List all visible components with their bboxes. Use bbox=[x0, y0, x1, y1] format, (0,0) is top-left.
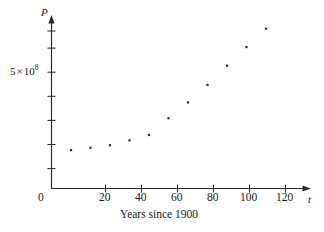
data-point bbox=[206, 84, 208, 86]
data-point bbox=[128, 139, 130, 141]
x-tick-label-60: 60 bbox=[171, 192, 183, 204]
data-point bbox=[89, 147, 91, 149]
x-tick-label-80: 80 bbox=[207, 192, 219, 204]
y-label-base: 10 bbox=[24, 65, 35, 77]
y-axis-tick-label: 5×108 bbox=[10, 66, 38, 77]
multiplication-sign-icon: × bbox=[16, 65, 24, 77]
data-point bbox=[167, 117, 169, 119]
data-point bbox=[70, 149, 72, 151]
data-point bbox=[109, 144, 111, 146]
data-point bbox=[187, 101, 189, 103]
data-point bbox=[226, 65, 228, 67]
x-tick-label-40: 40 bbox=[135, 192, 147, 204]
data-point bbox=[245, 46, 247, 48]
y-label-exponent: 8 bbox=[35, 63, 39, 72]
y-label-mantissa: 5 bbox=[10, 65, 16, 77]
data-point bbox=[265, 28, 267, 30]
y-axis-arrow-icon bbox=[48, 15, 54, 24]
scatter-plot-figure: P 5×108 0 20 40 60 80 100 120 t Years si… bbox=[0, 0, 324, 232]
origin-label: 0 bbox=[38, 192, 44, 204]
x-axis-variable-label: t bbox=[308, 194, 311, 205]
x-axis-caption: Years since 1900 bbox=[120, 209, 198, 221]
y-axis-variable-label: P bbox=[41, 7, 48, 18]
x-tick-label-120: 120 bbox=[276, 192, 293, 204]
x-tick-label-20: 20 bbox=[99, 192, 111, 204]
x-axis-arrow-icon bbox=[303, 185, 312, 191]
data-points-group bbox=[70, 28, 267, 152]
x-tick-label-100: 100 bbox=[240, 192, 257, 204]
data-point bbox=[148, 134, 150, 136]
